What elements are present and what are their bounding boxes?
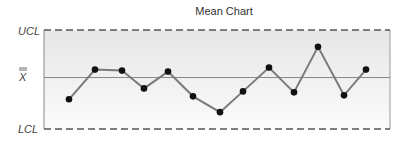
data-point xyxy=(240,88,247,95)
data-point xyxy=(266,64,273,71)
data-point xyxy=(165,68,172,75)
lcl-label: LCL xyxy=(18,123,38,135)
data-point xyxy=(119,67,126,74)
data-point xyxy=(92,66,99,73)
svg-text:X: X xyxy=(18,71,27,83)
data-point xyxy=(66,96,73,103)
chart-title: Mean Chart xyxy=(195,5,252,17)
xbar-label: X xyxy=(18,68,27,83)
data-point xyxy=(363,66,370,73)
mean-chart: Mean Chart UCL X LCL xyxy=(0,0,407,143)
ucl-label: UCL xyxy=(18,25,40,37)
data-point xyxy=(217,109,224,116)
data-point xyxy=(141,85,148,92)
data-point xyxy=(190,93,197,100)
data-point xyxy=(291,89,298,96)
data-point xyxy=(341,92,348,99)
data-point xyxy=(315,44,322,51)
plot-area xyxy=(44,30,390,129)
